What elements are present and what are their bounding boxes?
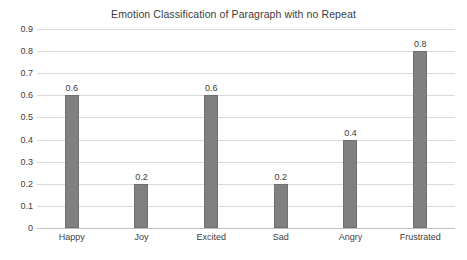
y-axis-tick-label: 0.3 xyxy=(20,157,33,167)
bar[interactable] xyxy=(274,184,288,228)
bar[interactable] xyxy=(65,95,79,228)
bar-value-label: 0.8 xyxy=(414,39,427,49)
plot-area: 0.60.20.60.20.40.8 xyxy=(37,29,455,228)
bar-group: 0.2 xyxy=(246,29,316,228)
bar-value-label: 0.2 xyxy=(275,172,288,182)
bar-group: 0.6 xyxy=(37,29,107,228)
y-axis-tick-label: 0.7 xyxy=(20,68,33,78)
bar-value-label: 0.4 xyxy=(344,128,357,138)
x-axis: HappyJoyExcitedSadAngryFrustrated xyxy=(37,232,455,248)
y-axis-tick-label: 0.1 xyxy=(20,201,33,211)
y-axis-tick-label: 0.8 xyxy=(20,46,33,56)
bar-value-label: 0.6 xyxy=(205,83,218,93)
bar-chart: Emotion Classification of Paragraph with… xyxy=(0,0,467,260)
bar-group: 0.4 xyxy=(316,29,386,228)
bar[interactable] xyxy=(134,184,148,228)
bar[interactable] xyxy=(343,140,357,228)
y-axis-tick-label: 0.9 xyxy=(20,24,33,34)
chart-title: Emotion Classification of Paragraph with… xyxy=(0,8,467,20)
bar-value-label: 0.6 xyxy=(66,83,79,93)
bar-group: 0.6 xyxy=(176,29,246,228)
y-axis-tick-label: 0.6 xyxy=(20,90,33,100)
bar-group: 0.2 xyxy=(107,29,177,228)
x-axis-tick-label: Joy xyxy=(134,232,148,242)
bar-value-label: 0.2 xyxy=(135,172,148,182)
x-axis-tick-label: Happy xyxy=(59,232,85,242)
y-axis-tick-label: 0.5 xyxy=(20,112,33,122)
x-axis-tick-label: Sad xyxy=(273,232,289,242)
y-axis: 0.90.80.70.60.50.40.30.20.10 xyxy=(0,0,33,260)
y-axis-tick-label: 0.2 xyxy=(20,179,33,189)
y-axis-tick-label: 0.4 xyxy=(20,135,33,145)
y-axis-tick-label: 0 xyxy=(28,223,33,233)
bar[interactable] xyxy=(204,95,218,228)
bar-group: 0.8 xyxy=(385,29,455,228)
bar[interactable] xyxy=(413,51,427,228)
x-axis-tick-label: Angry xyxy=(339,232,363,242)
x-axis-tick-label: Frustrated xyxy=(400,232,441,242)
gridline xyxy=(37,228,455,229)
x-axis-tick-label: Excited xyxy=(196,232,226,242)
